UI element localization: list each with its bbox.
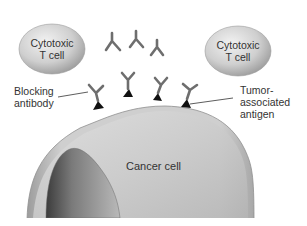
tumor-antigen-label: Tumor- associated antigen xyxy=(240,84,290,120)
blocking-antibody-label: Blocking antibody xyxy=(14,85,54,109)
tumor-antigen-leader xyxy=(190,98,233,104)
free-antibodies xyxy=(106,31,163,55)
bound-antibodies xyxy=(89,73,197,101)
blocking-antibody-leader xyxy=(58,92,88,97)
cancer-cell-label: Cancer cell xyxy=(126,160,181,172)
diagram-canvas: Cytotoxic T cell Cytotoxic T cell Blocki… xyxy=(0,0,307,226)
t-cell-left-label: Cytotoxic T cell xyxy=(22,37,82,61)
t-cell-right-label: Cytotoxic T cell xyxy=(208,39,268,63)
